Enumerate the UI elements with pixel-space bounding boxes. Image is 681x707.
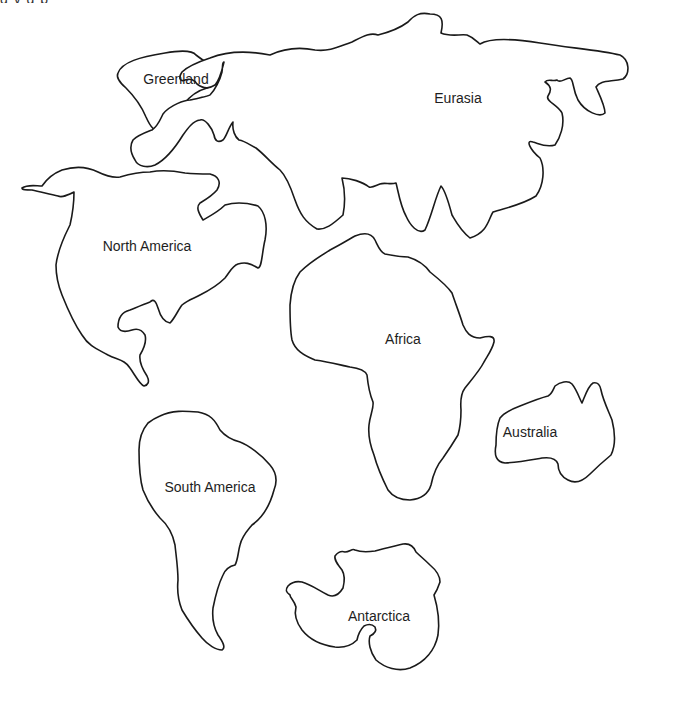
continent-north-america[interactable] [22, 168, 266, 386]
continent-africa[interactable] [290, 234, 494, 500]
world-map: g y g p Greenland Eurasia North Ame [0, 0, 681, 707]
continent-eurasia[interactable] [131, 13, 628, 238]
label-africa: Africa [385, 331, 421, 347]
label-eurasia: Eurasia [434, 90, 481, 106]
continent-antarctica[interactable] [286, 544, 440, 670]
label-north-america: North America [103, 238, 192, 254]
label-antarctica: Antarctica [348, 608, 410, 624]
continent-south-america[interactable] [139, 411, 276, 650]
label-south-america: South America [164, 479, 255, 495]
continents-svg [0, 0, 681, 707]
label-australia: Australia [503, 424, 557, 440]
label-greenland: Greenland [143, 71, 208, 87]
